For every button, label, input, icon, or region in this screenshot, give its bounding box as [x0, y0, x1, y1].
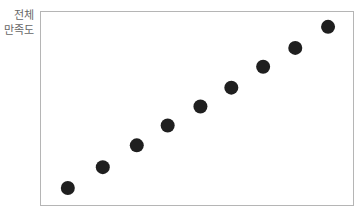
- data-point: [96, 160, 110, 174]
- data-point: [321, 20, 335, 34]
- data-point: [193, 100, 207, 114]
- data-point: [161, 118, 175, 132]
- y-axis-label-line-2: 만족도: [0, 23, 34, 38]
- data-point: [256, 60, 270, 74]
- plot-area: [40, 11, 354, 206]
- scatter-plot: [41, 12, 353, 205]
- data-point: [130, 138, 144, 152]
- data-point: [61, 181, 75, 195]
- y-axis-label-line-1: 전체: [0, 8, 34, 23]
- data-point: [288, 41, 302, 55]
- y-axis-label: 전체 만족도: [0, 8, 34, 38]
- data-point: [224, 81, 238, 95]
